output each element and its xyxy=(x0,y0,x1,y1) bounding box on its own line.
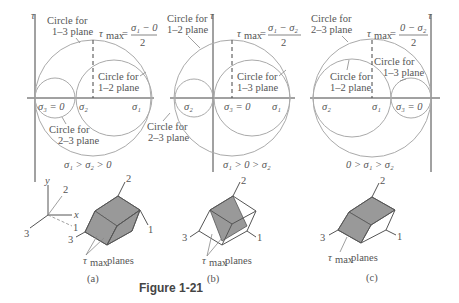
label-circle-1-2-line2: 1–2 plane xyxy=(167,24,208,35)
tau-max-sub: max xyxy=(90,257,109,268)
sigma2-label: σ₂ xyxy=(322,101,331,112)
tau-max-symbol: τ xyxy=(367,28,372,39)
leader-line xyxy=(347,60,349,70)
sigma2-label: σ₂ xyxy=(79,101,88,112)
equals-sign: = xyxy=(122,28,128,39)
tau-max-symbol: τ xyxy=(328,252,333,263)
axis-2-line xyxy=(233,182,240,196)
figure-canvas: τ Circle for 1–3 plane τ max = σ₁ − 0 2 … xyxy=(0,0,459,303)
axis-1-label: 1 xyxy=(397,231,402,242)
equals-sign: = xyxy=(260,28,266,39)
axis-1-label: 1 xyxy=(257,232,262,243)
label-circle-2-3-line2: 2–3 plane xyxy=(58,135,99,146)
sigma1-label: σ₁ xyxy=(272,101,281,112)
label-circle-1-3: Circle for xyxy=(237,71,278,82)
tau-axis-label: τ xyxy=(428,10,433,21)
label-circle-1-3: Circle for xyxy=(374,56,415,67)
leader-line xyxy=(62,117,66,124)
label-circle-1-3: Circle for xyxy=(47,15,88,26)
coordinate-axes-icon: y x 2 1 3 xyxy=(24,175,79,239)
panel-c-mohr-diagram: τ Circle for 2–3 plane τ max = 0 − σ₂ 2 … xyxy=(310,10,440,172)
leader-line xyxy=(163,113,170,121)
axis-1-line xyxy=(247,231,256,237)
tau-max-denominator: 2 xyxy=(411,37,416,48)
tau-max-denominator: 2 xyxy=(281,37,286,48)
leader-line xyxy=(188,36,200,48)
panel-a-mohr-diagram: τ Circle for 1–3 plane τ max = σ₁ − 0 2 … xyxy=(27,10,158,182)
axis-2-label: 2 xyxy=(380,175,385,186)
tau-max-numerator: σ₁ − σ₂ xyxy=(268,22,298,33)
axis-3-label: 3 xyxy=(24,228,29,239)
planes-label: planes xyxy=(225,255,252,266)
axis-1-line xyxy=(140,210,148,225)
sigma1-label: σ₁ xyxy=(132,101,141,112)
axis-1-line xyxy=(386,230,396,235)
sigma2-label: σ₂ xyxy=(184,101,193,112)
condition-label: σ₁ > σ₂ > 0 xyxy=(64,159,112,170)
label-circle-2-3: Circle for xyxy=(49,124,90,135)
axis-1-label: 1 xyxy=(148,224,153,235)
panel-label-c: (c) xyxy=(366,272,378,284)
label-circle-1-3-line2: 1–3 plane xyxy=(383,67,424,78)
label-circle-1-3-line2: 1–3 plane xyxy=(52,26,93,37)
tau-max-symbol: τ xyxy=(99,28,104,39)
tau-max-symbol: τ xyxy=(83,255,88,266)
panel-b-mohr-diagram: τ Circle for 1–2 plane τ max = σ₁ − σ₂ 2… xyxy=(167,10,301,172)
axis-3-line xyxy=(329,230,338,235)
axis-2-line xyxy=(372,183,379,197)
panel-label-a: (a) xyxy=(87,273,99,285)
stress-block-a: 2 1 3 τ max planes (a) xyxy=(68,173,153,285)
condition-label: 0 > σ₁ > σ₂ xyxy=(346,159,394,170)
axis-2-line xyxy=(118,182,125,196)
planes-leader xyxy=(340,237,347,252)
y-axis-label: y xyxy=(44,175,50,186)
sigma1-label: σ₁ xyxy=(372,101,381,112)
sigma3-label: σ₃ = 0 xyxy=(396,101,423,112)
tau-max-numerator: 0 − σ₂ xyxy=(400,22,427,33)
axis-2-label: 2 xyxy=(63,184,68,195)
axis-3-line xyxy=(190,231,199,237)
stress-block-c: 2 1 3 τ max planes (c) xyxy=(320,175,402,284)
label-circle-1-2-line2: 1–2 plane xyxy=(98,82,139,93)
tau-max-numerator: σ₁ − 0 xyxy=(131,22,158,33)
tau-axis-label: τ xyxy=(210,10,215,21)
axis-1-line xyxy=(48,215,72,226)
leader-line xyxy=(342,36,348,42)
equals-sign: = xyxy=(390,28,396,39)
tau-max-symbol: τ xyxy=(202,255,207,266)
z-axis xyxy=(30,215,48,228)
label-circle-2-3-outer-line2: 2–3 plane xyxy=(148,132,189,143)
axis-2-label: 2 xyxy=(126,173,131,184)
condition-label: σ₁ > 0 > σ₂ xyxy=(223,159,271,170)
sigma3-label: σ₃ = 0 xyxy=(38,101,65,112)
label-circle-1-2-line2: 1–2 plane xyxy=(330,82,371,93)
tau-max-denominator: 2 xyxy=(140,37,145,48)
planes-label: planes xyxy=(351,252,378,263)
label-circle-2-3-line2: 2–3 plane xyxy=(311,24,352,35)
label-circle-1-2: Circle for xyxy=(167,13,208,24)
figure-caption: Figure 1-21 xyxy=(139,281,203,295)
label-circle-1-2: Circle for xyxy=(98,71,139,82)
stress-block-b: 2 1 3 τ max planes (b) xyxy=(182,175,262,285)
axis-3-label: 3 xyxy=(320,232,325,243)
axis-3-label: 3 xyxy=(68,234,73,245)
axis-1-label: 1 xyxy=(73,222,78,233)
label-circle-2-3: Circle for xyxy=(311,13,352,24)
axis-2-label: 2 xyxy=(241,175,246,186)
axis-2-line xyxy=(48,196,62,215)
panel-label-b: (b) xyxy=(207,273,220,285)
label-circle-1-2: Circle for xyxy=(330,71,371,82)
axis-3-label: 3 xyxy=(182,232,187,243)
x-axis-label: x xyxy=(73,209,79,220)
sigma3-label: σ₃ = 0 xyxy=(224,101,251,112)
planes-label: planes xyxy=(107,255,134,266)
label-circle-1-3-line2: 1–3 plane xyxy=(237,82,278,93)
tau-max-symbol: τ xyxy=(237,28,242,39)
